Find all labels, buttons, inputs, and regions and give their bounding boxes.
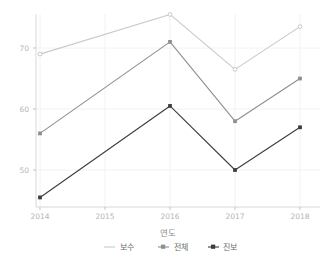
data-point-진보-2018 [298,125,302,129]
line-chart: 50 60 70 2014 2015 2016 2017 2018 연도 [0,0,329,261]
data-point-보수-2017 [233,67,237,71]
ytick-label-60: 60 [19,105,29,114]
data-point-전체-2018 [298,77,302,81]
legend-label-진보: 진보 [223,242,237,252]
chart-background [0,0,329,261]
data-point-전체-2017 [233,119,237,123]
legend-label-보수: 보수 [120,243,134,252]
data-point-진보-2017 [233,168,237,172]
data-point-전체-2016 [168,40,172,44]
legend-marker-icon-진보 [211,245,215,249]
data-point-전체-2014 [38,132,42,136]
legend-marker-icon-전체 [161,245,165,249]
xtick-label-2015: 2015 [95,212,114,221]
x-axis-title: 연도 [160,228,176,238]
legend-label-전체: 전체 [174,242,188,252]
data-point-진보-2016 [168,104,172,108]
data-point-보수-2018 [298,25,302,29]
xtick-label-2018: 2018 [290,212,309,221]
data-point-진보-2014 [38,196,42,200]
data-point-보수-2014 [38,52,42,56]
data-point-보수-2016 [168,13,172,17]
xtick-label-2017: 2017 [225,212,244,221]
ytick-label-50: 50 [19,166,29,175]
xtick-label-2014: 2014 [30,212,49,221]
chart-canvas: 50 60 70 2014 2015 2016 2017 2018 연도 [0,0,329,261]
ytick-label-70: 70 [19,44,29,53]
xtick-label-2016: 2016 [160,212,179,221]
